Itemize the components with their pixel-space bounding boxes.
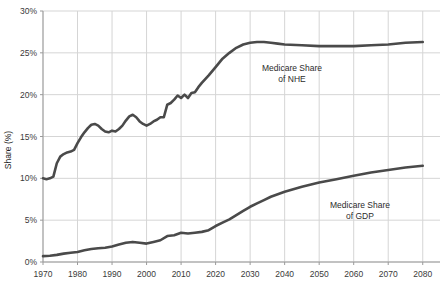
series-annotation-label: Medicare Share — [262, 63, 322, 73]
x-tick-label: 2010 — [172, 269, 191, 279]
gridlines — [43, 11, 440, 262]
medicare-share-chart: 0%5%10%15%20%25%30%197019801990200020102… — [0, 0, 443, 293]
y-tick-label: 10% — [20, 173, 37, 183]
series-annotations: Medicare Shareof NHEMedicare Shareof GDP — [262, 63, 390, 221]
y-tick-label: 20% — [20, 90, 37, 100]
y-axis-title: Share (%) — [3, 131, 13, 169]
y-tick-label: 30% — [20, 6, 37, 16]
y-tick-label: 15% — [20, 132, 37, 142]
axes — [40, 11, 440, 265]
x-tick-label: 2020 — [206, 269, 225, 279]
series-line — [43, 42, 423, 179]
x-tick-label: 2050 — [310, 269, 329, 279]
x-tick-label: 1980 — [68, 269, 87, 279]
series-annotation-label: of GDP — [346, 211, 374, 221]
x-tick-label: 2070 — [379, 269, 398, 279]
x-tick-label: 2040 — [275, 269, 294, 279]
chart-canvas: 0%5%10%15%20%25%30%197019801990200020102… — [0, 0, 443, 293]
series-annotation-label: Medicare Share — [330, 200, 390, 210]
x-tick-label: 2030 — [241, 269, 260, 279]
y-tick-label: 25% — [20, 48, 37, 58]
y-tick-label: 0% — [25, 257, 38, 267]
data-series — [43, 42, 423, 256]
x-tick-label: 1990 — [103, 269, 122, 279]
y-tick-label: 5% — [25, 215, 38, 225]
x-tick-label: 2080 — [413, 269, 432, 279]
x-tick-label: 2000 — [137, 269, 156, 279]
x-tick-label: 2060 — [344, 269, 363, 279]
tick-labels: 0%5%10%15%20%25%30%197019801990200020102… — [20, 6, 432, 279]
x-tick-label: 1970 — [34, 269, 53, 279]
series-annotation-label: of NHE — [278, 74, 306, 84]
